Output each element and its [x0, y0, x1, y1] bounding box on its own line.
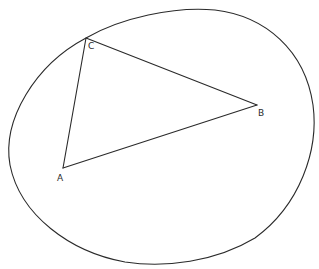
edge-cb	[86, 38, 257, 105]
edge-ab	[63, 105, 257, 168]
outer-oval	[9, 9, 314, 264]
edge-ca	[63, 38, 86, 168]
vertex-label-a: A	[57, 173, 64, 183]
vertex-label-c: C	[88, 41, 94, 51]
vertex-label-b: B	[258, 108, 264, 118]
diagram-canvas: C B A	[0, 0, 319, 269]
